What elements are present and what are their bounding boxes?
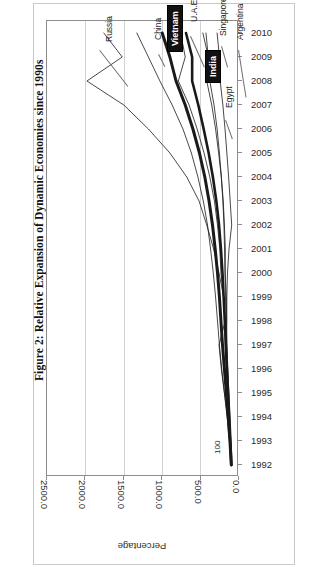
category-axis-label: 1997: [251, 339, 272, 350]
category-axis-tick: [238, 320, 242, 321]
category-axis-tick: [238, 176, 242, 177]
series-label-vietnam: Vietnam: [167, 5, 183, 52]
category-axis-tick: [238, 464, 242, 465]
series-line-russia: [87, 33, 231, 465]
series-label-egypt: Egypt: [224, 86, 234, 108]
category-axis-label: 2003: [251, 195, 272, 206]
category-axis-tick: [238, 296, 242, 297]
category-axis-label: 2007: [251, 99, 272, 110]
category-axis-tick: [238, 128, 242, 129]
plot-area: [46, 20, 238, 476]
category-axis-label: 2001: [251, 243, 272, 254]
category-axis-tick: [238, 248, 242, 249]
category-axis-label: 1993: [251, 435, 272, 446]
category-axis-tick: [238, 200, 242, 201]
value-axis-label: 2500.0: [39, 480, 50, 526]
series-label-singapore: Singapore: [218, 0, 228, 36]
figure-container: Figure 2: Relative Expansion of Dynamic …: [0, 0, 309, 581]
category-axis-label: 2006: [251, 123, 272, 134]
category-axis-label: 2009: [251, 51, 272, 62]
series-label-india: India: [205, 50, 221, 83]
value-axis-title: Percentage: [92, 541, 192, 552]
category-axis-label: 1996: [251, 363, 272, 374]
value-axis-label: 1500.0: [116, 480, 127, 526]
category-axis-label: 1999: [251, 291, 272, 302]
series-lines: [47, 21, 239, 477]
category-axis-label: 1992: [251, 459, 272, 470]
series-label-russia: Russia: [104, 16, 114, 42]
category-axis-tick: [238, 224, 242, 225]
category-axis-tick: [238, 416, 242, 417]
series-line-china: [137, 33, 231, 465]
category-axis-tick: [238, 272, 242, 273]
value-axis-label: 1000.0: [154, 480, 165, 526]
value-axis-label: 2000.0: [77, 480, 88, 526]
category-axis-tick: [238, 344, 242, 345]
category-axis-label: 1995: [251, 387, 272, 398]
series-label-uae: U.A.E: [189, 0, 199, 22]
data-label-100: 100: [213, 441, 222, 454]
category-axis-tick: [238, 440, 242, 441]
value-axis-label: 500.0: [193, 480, 204, 526]
category-axis-tick: [238, 152, 242, 153]
series-label-china: China: [153, 18, 163, 40]
category-axis-tick: [238, 368, 242, 369]
category-axis-label: 2005: [251, 147, 272, 158]
value-axis-label: 0.0: [231, 480, 242, 526]
category-axis-label: 2008: [251, 75, 272, 86]
category-axis-tick: [238, 80, 242, 81]
category-axis-label: 2004: [251, 171, 272, 182]
category-axis-label: 2002: [251, 219, 272, 230]
category-axis-tick: [238, 104, 242, 105]
figure-caption: Figure 2: Relative Expansion of Dynamic …: [33, 131, 45, 381]
series-label-argentina: Argentina: [235, 4, 245, 40]
category-axis-label: 2000: [251, 267, 272, 278]
category-axis-label: 2010: [251, 27, 272, 38]
category-axis-label: 1998: [251, 315, 272, 326]
category-axis-label: 1994: [251, 411, 272, 422]
category-axis-tick: [238, 392, 242, 393]
